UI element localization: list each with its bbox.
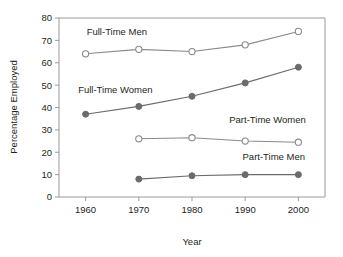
data-point [189, 48, 195, 54]
series-inline-label: Part-Time Men [243, 151, 305, 162]
data-point [136, 46, 142, 52]
y-tick-label: 0 [47, 191, 52, 202]
data-point [242, 172, 248, 178]
y-tick-label: 50 [41, 80, 52, 91]
data-point [242, 42, 248, 48]
series-inline-label: Full-Time Men [87, 26, 147, 37]
x-tick-label: 1990 [235, 204, 256, 215]
y-tick-label: 30 [41, 124, 52, 135]
y-tick-label: 60 [41, 57, 52, 68]
y-tick-label: 20 [41, 147, 52, 158]
data-point [295, 172, 301, 178]
data-point [189, 135, 195, 141]
data-point [136, 136, 142, 142]
data-point [242, 80, 248, 86]
y-tick-label: 70 [41, 35, 52, 46]
data-point [83, 111, 89, 117]
series-inline-label: Full-Time Women [78, 84, 152, 95]
x-axis-title: Year [182, 236, 201, 247]
series-inline-label: Part-Time Women [229, 114, 306, 125]
data-point [295, 64, 301, 70]
y-tick-label: 40 [41, 102, 52, 113]
x-tick-label: 1970 [128, 204, 149, 215]
data-point [295, 28, 301, 34]
data-point [83, 51, 89, 57]
data-point [136, 176, 142, 182]
y-tick-label: 10 [41, 169, 52, 180]
data-point [189, 173, 195, 179]
data-point [295, 139, 301, 145]
data-point [242, 138, 248, 144]
x-tick-label: 1980 [181, 204, 202, 215]
y-tick-label: 80 [41, 12, 52, 23]
line-chart: 01020304050607080 19601970198019902000 P… [0, 0, 343, 257]
data-point [189, 93, 195, 99]
chart-figure: 01020304050607080 19601970198019902000 P… [0, 0, 343, 257]
data-point [136, 103, 142, 109]
x-tick-label: 1960 [75, 204, 96, 215]
y-axis-title: Percentage Employed [8, 60, 19, 153]
x-tick-label: 2000 [288, 204, 309, 215]
